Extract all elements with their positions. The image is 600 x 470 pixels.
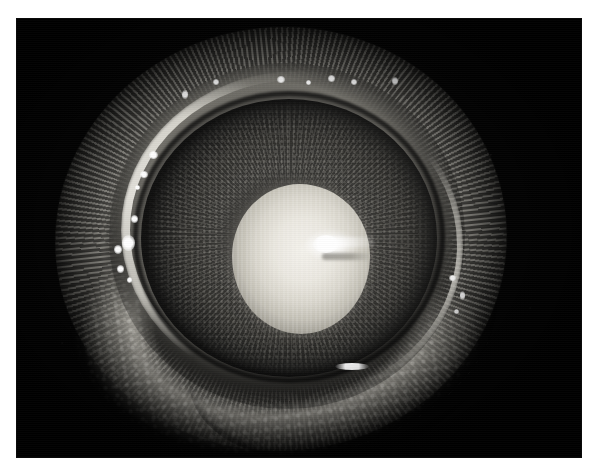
- photograph-figure: Grayscale close-up photograph of a human…: [0, 0, 600, 470]
- eye-photograph: Grayscale close-up photograph of a human…: [17, 19, 581, 457]
- page-root: Grayscale close-up photograph of a human…: [0, 0, 600, 470]
- halftone-texture-layer: [17, 19, 581, 457]
